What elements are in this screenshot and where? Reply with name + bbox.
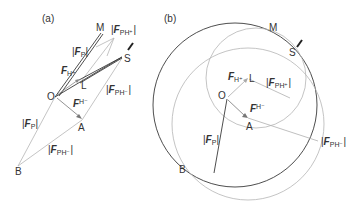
point-l-a: L — [81, 80, 87, 91]
label-fph-minus-bottom-a: |FPH⁻| — [48, 144, 73, 156]
label-fph-minus-b: |FPH⁻| — [321, 136, 346, 148]
label-fph-minus-top-a: |FPH⁻| — [106, 84, 131, 96]
point-b-a: B — [15, 166, 22, 177]
point-a-a: A — [78, 122, 85, 133]
panel-a-label: (a) — [42, 13, 54, 24]
panel-b-label: (b) — [164, 13, 176, 24]
sun-arrow-icon — [128, 43, 133, 50]
line-a-fph-minus-b — [248, 118, 318, 141]
label-fh-minus-a: FH⁻ — [73, 98, 88, 109]
point-b-b: B — [179, 164, 186, 175]
harker-construction-figure: (a) M S O L A B |FP| |FPH⁺| — [0, 0, 361, 203]
arrow-fh-minus-b — [228, 100, 245, 116]
arrow-fh-plus — [57, 80, 78, 95]
point-s-b: S — [289, 47, 296, 58]
point-s-a: S — [124, 53, 131, 64]
point-a-b: A — [246, 121, 253, 132]
label-fh-plus-a: FH⁺ — [61, 65, 76, 77]
panel-b: (b) M S O L A B FH⁺ |FPH⁺| FH⁻ — [153, 13, 346, 200]
label-fh-plus-b: FH⁺ — [228, 71, 243, 83]
point-o-a: O — [47, 91, 55, 102]
point-m-b: M — [269, 22, 277, 33]
label-fp-top-a: |FP| — [72, 46, 88, 58]
point-m-a: M — [96, 22, 104, 33]
point-l-b: L — [249, 73, 255, 84]
line-l-fph-plus-1 — [82, 38, 114, 80]
line-o-b — [18, 97, 55, 166]
point-o-b: O — [218, 90, 226, 101]
label-fph-plus-a: |FPH⁺| — [111, 24, 136, 36]
sun-arrow-icon-b — [297, 40, 302, 47]
label-fph-plus-b: |FPH⁺| — [266, 77, 291, 89]
panel-a: (a) M S O L A B |FP| |FPH⁺| — [15, 13, 136, 177]
label-fh-minus-b: FH⁻ — [250, 103, 265, 114]
label-fp-b: |FP| — [203, 134, 219, 146]
label-fp-bottom-a: |FP| — [22, 118, 38, 130]
